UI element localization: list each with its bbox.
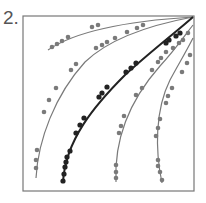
data-point-dot: [60, 178, 65, 183]
data-point-dot: [90, 25, 95, 30]
curve-3: [60, 17, 193, 184]
curve-3-line: [63, 17, 193, 183]
data-point-dot: [160, 178, 165, 183]
data-point-dot: [156, 164, 161, 169]
data-point-dot: [114, 163, 119, 168]
data-point-dot: [67, 148, 72, 153]
data-point-dot: [114, 176, 119, 181]
data-point-dot: [99, 90, 104, 95]
data-point-dot: [164, 50, 169, 55]
data-point-dot: [34, 166, 39, 171]
data-point-dot: [114, 170, 119, 175]
data-point-dot: [133, 60, 138, 65]
curves-group: [34, 17, 193, 184]
data-point-dot: [135, 26, 140, 31]
data-point-dot: [63, 159, 68, 164]
data-point-dot: [66, 35, 71, 40]
data-point-dot: [64, 154, 69, 159]
data-point-dot: [55, 42, 60, 47]
data-point-dot: [62, 164, 67, 169]
data-point-dot: [166, 37, 171, 42]
data-point-dot: [61, 171, 66, 176]
data-point-dot: [105, 40, 110, 45]
data-point-dot: [50, 45, 55, 50]
data-point-dot: [69, 68, 74, 73]
data-point-dot: [164, 101, 169, 106]
data-point-dot: [47, 98, 52, 103]
data-point-dot: [159, 56, 164, 61]
data-point-dot: [42, 110, 47, 115]
data-point-dot: [113, 36, 118, 41]
data-point-dot: [185, 61, 190, 66]
data-point-dot: [154, 134, 159, 139]
data-point-dot: [156, 158, 161, 163]
data-point-dot: [150, 68, 155, 73]
data-point-dot: [60, 39, 65, 44]
data-point-dot: [35, 148, 40, 153]
data-point-dot: [119, 124, 124, 129]
data-point-dot: [156, 126, 161, 131]
data-point-dot: [156, 60, 161, 65]
data-point-dot: [177, 30, 182, 35]
data-point-dot: [81, 115, 86, 120]
data-point-dot: [140, 86, 145, 91]
data-point-dot: [123, 69, 128, 74]
data-point-dot: [186, 31, 191, 36]
data-point-dot: [125, 30, 130, 35]
curve-5-line: [157, 38, 193, 183]
data-point-dot: [74, 62, 79, 67]
data-point-dot: [181, 38, 186, 43]
data-point-dot: [141, 23, 146, 28]
data-point-dot: [104, 84, 109, 89]
data-point-dot: [166, 94, 171, 99]
curve-4: [114, 25, 193, 182]
data-point-dot: [117, 131, 122, 136]
data-point-dot: [96, 23, 101, 28]
data-point-dot: [128, 65, 133, 70]
data-point-dot: [122, 114, 127, 119]
data-point-dot: [134, 93, 139, 98]
data-point-dot: [54, 86, 59, 91]
data-point-dot: [158, 170, 163, 175]
data-point-dot: [34, 158, 39, 163]
data-point-dot: [180, 70, 185, 75]
data-point-dot: [188, 53, 193, 58]
data-point-dot: [77, 122, 82, 127]
data-point-dot: [94, 46, 99, 51]
data-point-dot: [177, 41, 182, 46]
data-point-dot: [158, 117, 163, 122]
data-point-dot: [100, 43, 105, 48]
curves-diagram: [0, 0, 206, 203]
data-point-dot: [171, 46, 176, 51]
data-point-dot: [170, 86, 175, 91]
data-point-dot: [73, 130, 78, 135]
